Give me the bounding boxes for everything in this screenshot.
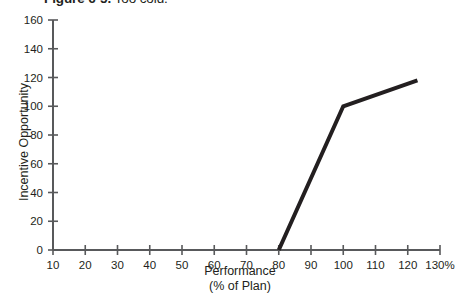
x-axis-title-main: Performance [145, 264, 335, 279]
chart-plot-area [0, 0, 455, 297]
chart-series [279, 80, 418, 250]
chart-axes [53, 20, 440, 250]
x-axis-tick-label: 110 [366, 259, 384, 271]
y-axis-tick-label: 140 [0, 43, 43, 55]
series-line [279, 80, 418, 250]
y-axis-tick-label: 0 [0, 244, 43, 256]
chart-ticks [48, 20, 440, 255]
x-axis-tick-label: 120 [398, 259, 417, 271]
x-axis-tick-label: 20 [79, 259, 92, 271]
x-axis-title-sub: (% of Plan) [145, 279, 335, 294]
x-axis-tick-label: 130% [425, 259, 454, 271]
y-axis-tick-label: 160 [0, 14, 43, 26]
figure-container: Figure 6-5. Too cold. 020406080100120140… [0, 0, 455, 297]
x-axis-tick-label: 100 [334, 259, 353, 271]
x-axis-tick-label: 30 [111, 259, 124, 271]
x-axis-title: Performance (% of Plan) [145, 264, 335, 294]
y-axis-title: Incentive Opportunity [17, 57, 31, 227]
x-axis-tick-label: 10 [47, 259, 60, 271]
